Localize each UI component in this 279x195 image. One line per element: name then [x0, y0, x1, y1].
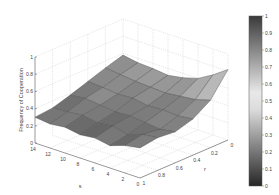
svg-text:0.6: 0.6 [26, 88, 33, 94]
svg-text:6: 6 [92, 166, 95, 172]
svg-text:10: 10 [60, 156, 66, 162]
svg-text:0: 0 [30, 140, 33, 146]
colorbar: 00.10.20.30.40.50.60.70.80.91 [249, 13, 272, 189]
svg-text:0.8: 0.8 [158, 172, 165, 178]
svg-text:0.6: 0.6 [265, 81, 272, 87]
svg-text:0: 0 [231, 142, 234, 148]
colorbar-ticks: 00.10.20.30.40.50.60.70.80.91 [262, 13, 272, 189]
svg-text:0.9: 0.9 [265, 30, 272, 36]
svg-text:0: 0 [137, 181, 140, 187]
z-axis-label: Frequency of Cooperation [18, 68, 24, 132]
svg-text:1: 1 [265, 13, 268, 19]
svg-text:12: 12 [45, 151, 51, 157]
svg-text:0.5: 0.5 [265, 98, 272, 104]
svg-text:0.6: 0.6 [176, 165, 183, 171]
svg-text:0.3: 0.3 [265, 132, 272, 138]
surface-plot-figure: 00.20.40.60.811412108642010.80.60.40.20 … [0, 0, 279, 195]
y-axis-label-r: r [204, 166, 206, 172]
svg-text:0.8: 0.8 [265, 47, 272, 53]
x-axis-label-s: s [79, 183, 82, 189]
svg-text:0.2: 0.2 [26, 123, 33, 129]
svg-text:4: 4 [107, 171, 110, 177]
svg-text:0.4: 0.4 [265, 115, 272, 121]
svg-text:1: 1 [30, 54, 33, 60]
svg-text:8: 8 [77, 161, 80, 167]
svg-text:0.4: 0.4 [26, 105, 33, 111]
svg-text:14: 14 [30, 146, 36, 152]
svg-text:0.2: 0.2 [265, 149, 272, 155]
svg-text:2: 2 [122, 176, 125, 182]
svg-text:0.7: 0.7 [265, 64, 272, 70]
svg-text:0: 0 [265, 183, 268, 189]
svg-text:1: 1 [143, 180, 146, 186]
svg-text:0.4: 0.4 [193, 157, 200, 163]
svg-text:0.2: 0.2 [211, 150, 218, 156]
svg-text:0.1: 0.1 [265, 166, 272, 172]
svg-text:0.8: 0.8 [26, 71, 33, 77]
